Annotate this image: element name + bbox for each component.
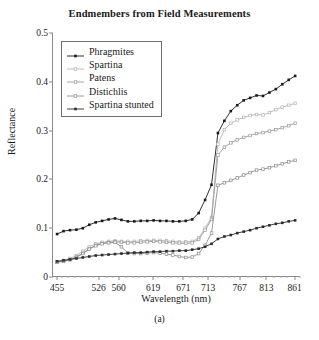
data-point-marker — [242, 136, 245, 139]
data-point-marker — [120, 245, 123, 248]
data-point-marker — [127, 252, 130, 255]
data-point-marker — [152, 250, 155, 253]
data-point-marker — [217, 132, 220, 135]
data-point-marker — [107, 242, 110, 245]
series-line — [57, 220, 295, 261]
data-point-marker — [165, 241, 168, 244]
data-point-marker — [230, 179, 233, 182]
y-axis-tick-mark — [49, 228, 53, 229]
x-axis-minor-tick — [126, 276, 127, 278]
data-point-marker — [223, 182, 226, 185]
legend-item-spartina-stunted[interactable]: Spartina stunted — [66, 99, 154, 112]
data-point-marker — [294, 159, 297, 162]
data-point-marker — [178, 249, 181, 252]
x-axis-label: Wavelength (nm) — [52, 293, 300, 304]
data-point-marker — [133, 220, 136, 223]
x-axis-minor-tick — [299, 276, 300, 278]
data-point-marker — [217, 184, 220, 187]
data-point-marker — [281, 126, 284, 129]
data-point-marker — [101, 220, 104, 223]
x-axis-tick-mark — [118, 276, 119, 280]
data-point-marker — [165, 220, 168, 223]
data-point-marker — [275, 88, 278, 91]
chart-title: Endmembers from Field Measurements — [0, 8, 319, 19]
data-point-marker — [82, 252, 85, 255]
x-axis-minor-tick — [81, 276, 82, 278]
data-point-marker — [210, 218, 213, 221]
y-axis-tick-mark — [49, 179, 53, 180]
data-point-marker — [210, 243, 213, 246]
data-point-marker — [139, 251, 142, 254]
data-point-marker — [281, 106, 284, 109]
x-axis-minor-tick — [145, 276, 146, 278]
data-point-marker — [184, 249, 187, 252]
figure-caption: (a) — [0, 314, 319, 324]
legend-item-spartina[interactable]: Spartina — [66, 58, 154, 71]
data-point-marker — [94, 244, 97, 247]
legend-label: Phragmites — [89, 47, 134, 57]
data-point-marker — [230, 142, 233, 145]
x-axis-minor-tick — [274, 276, 275, 278]
data-point-marker — [294, 219, 297, 222]
data-point-marker — [287, 161, 290, 164]
data-point-marker — [75, 228, 78, 231]
data-point-marker — [268, 111, 271, 114]
data-point-marker — [242, 99, 245, 102]
data-point-marker — [204, 199, 207, 202]
data-point-marker — [197, 212, 200, 215]
x-axis-tick-label: 560 — [111, 283, 125, 293]
data-point-marker — [146, 251, 149, 254]
data-point-marker — [236, 177, 239, 180]
x-axis-minor-tick — [93, 276, 94, 278]
x-axis-minor-tick — [235, 276, 236, 278]
data-point-marker — [191, 242, 194, 245]
data-point-marker — [184, 242, 187, 245]
y-axis-tick-mark — [49, 33, 53, 34]
data-point-marker — [287, 124, 290, 127]
x-axis-minor-tick — [87, 276, 88, 278]
data-point-marker — [191, 218, 194, 221]
data-point-marker — [223, 128, 226, 131]
data-point-marker — [172, 220, 175, 223]
x-axis-minor-tick — [254, 276, 255, 278]
x-axis-minor-tick — [248, 276, 249, 278]
data-point-marker — [249, 229, 252, 232]
data-point-marker — [268, 91, 271, 94]
data-point-marker — [287, 220, 290, 223]
data-point-marker — [127, 220, 130, 223]
x-axis-tick-label: 813 — [259, 283, 273, 293]
data-point-marker — [120, 241, 123, 244]
x-axis-minor-tick — [203, 276, 204, 278]
data-point-marker — [249, 97, 252, 100]
data-point-marker — [281, 162, 284, 165]
x-axis-minor-tick — [113, 276, 114, 278]
data-point-marker — [88, 255, 91, 258]
x-axis-tick-label: 767 — [232, 283, 246, 293]
data-point-marker — [120, 252, 123, 255]
data-point-marker — [133, 251, 136, 254]
data-point-marker — [262, 131, 265, 134]
data-point-marker — [262, 225, 265, 228]
legend-swatch-icon — [66, 60, 85, 70]
data-point-marker — [242, 230, 245, 233]
x-axis-minor-tick — [216, 276, 217, 278]
legend-item-distichlis[interactable]: Distichlis — [66, 85, 154, 98]
data-point-marker — [107, 253, 110, 256]
data-point-marker — [88, 223, 91, 226]
data-point-marker — [152, 219, 155, 222]
data-point-marker — [281, 222, 284, 225]
data-point-marker — [236, 139, 239, 142]
x-axis-minor-tick — [196, 276, 197, 278]
data-point-marker — [268, 224, 271, 227]
legend-item-patens[interactable]: Patens — [66, 72, 154, 85]
data-point-marker — [172, 242, 175, 245]
data-point-marker — [127, 242, 130, 245]
data-point-marker — [114, 253, 117, 256]
data-point-marker — [294, 102, 297, 105]
legend-item-phragmites[interactable]: Phragmites — [66, 45, 154, 58]
x-axis-tick-mark — [183, 276, 184, 280]
legend-swatch-icon — [66, 73, 85, 83]
x-axis-tick-label: 455 — [50, 283, 64, 293]
data-point-marker — [262, 114, 265, 117]
x-axis-minor-tick — [171, 276, 172, 278]
